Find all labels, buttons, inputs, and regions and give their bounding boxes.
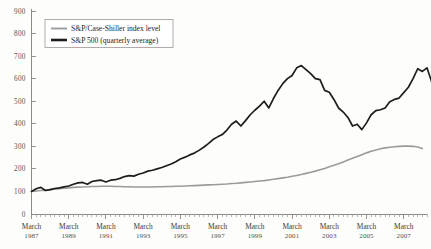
x-tick-month-2007: March: [394, 222, 414, 231]
x-tick-year-2005: 2005: [359, 232, 374, 240]
y-tick-label-500: 500: [14, 98, 26, 106]
y-tick-label-200: 200: [14, 165, 26, 173]
x-tick-year-2003: 2003: [322, 232, 337, 240]
series-line-sp500: [32, 66, 431, 192]
x-tick-month-1993: March: [134, 222, 154, 231]
y-axis-group: 0100200300400500600700800900: [14, 8, 35, 219]
legend-label-0: S&P/Case-Shiller index level: [71, 24, 160, 33]
x-tick-month-2005: March: [357, 222, 377, 231]
y-tick-label-300: 300: [14, 143, 26, 151]
y-axis-ticks: [32, 11, 36, 214]
x-tick-year-1997: 1997: [210, 232, 225, 240]
line-chart: 0100200300400500600700800900 March1987Ma…: [0, 0, 431, 249]
x-tick-year-1999: 1999: [248, 232, 263, 240]
x-axis-group: March1987March1989March1991March1993Marc…: [22, 214, 427, 240]
y-tick-label-0: 0: [22, 211, 26, 219]
x-tick-month-1987: March: [22, 222, 42, 231]
data-series-group: [32, 66, 431, 192]
x-axis-tick-labels: March1987March1989March1991March1993Marc…: [22, 222, 414, 240]
x-tick-month-1999: March: [245, 222, 265, 231]
x-tick-year-1989: 1989: [62, 232, 77, 240]
chart-container: 0100200300400500600700800900 March1987Ma…: [0, 0, 431, 249]
x-tick-year-1991: 1991: [99, 232, 114, 240]
legend-label-1: S&P 500 (quarterly average): [71, 36, 159, 45]
x-tick-month-2003: March: [320, 222, 340, 231]
y-tick-label-100: 100: [14, 188, 26, 196]
x-tick-year-1995: 1995: [173, 232, 188, 240]
x-tick-month-1991: March: [96, 222, 116, 231]
series-line-case-shiller: [32, 146, 423, 191]
x-tick-year-2001: 2001: [285, 232, 300, 240]
y-tick-label-400: 400: [14, 120, 26, 128]
y-tick-label-700: 700: [14, 53, 26, 61]
chart-legend: S&P/Case-Shiller index levelS&P 500 (qua…: [45, 20, 173, 48]
y-tick-label-900: 900: [14, 8, 26, 16]
x-tick-year-1987: 1987: [24, 232, 39, 240]
x-tick-year-2007: 2007: [397, 232, 412, 240]
x-tick-month-1997: March: [208, 222, 228, 231]
x-tick-year-1993: 1993: [136, 232, 151, 240]
x-tick-month-2001: March: [282, 222, 302, 231]
y-tick-label-800: 800: [14, 30, 26, 38]
y-axis-tick-labels: 0100200300400500600700800900: [14, 8, 26, 219]
x-tick-month-1989: March: [59, 222, 79, 231]
y-tick-label-600: 600: [14, 75, 26, 83]
x-tick-month-1995: March: [171, 222, 191, 231]
